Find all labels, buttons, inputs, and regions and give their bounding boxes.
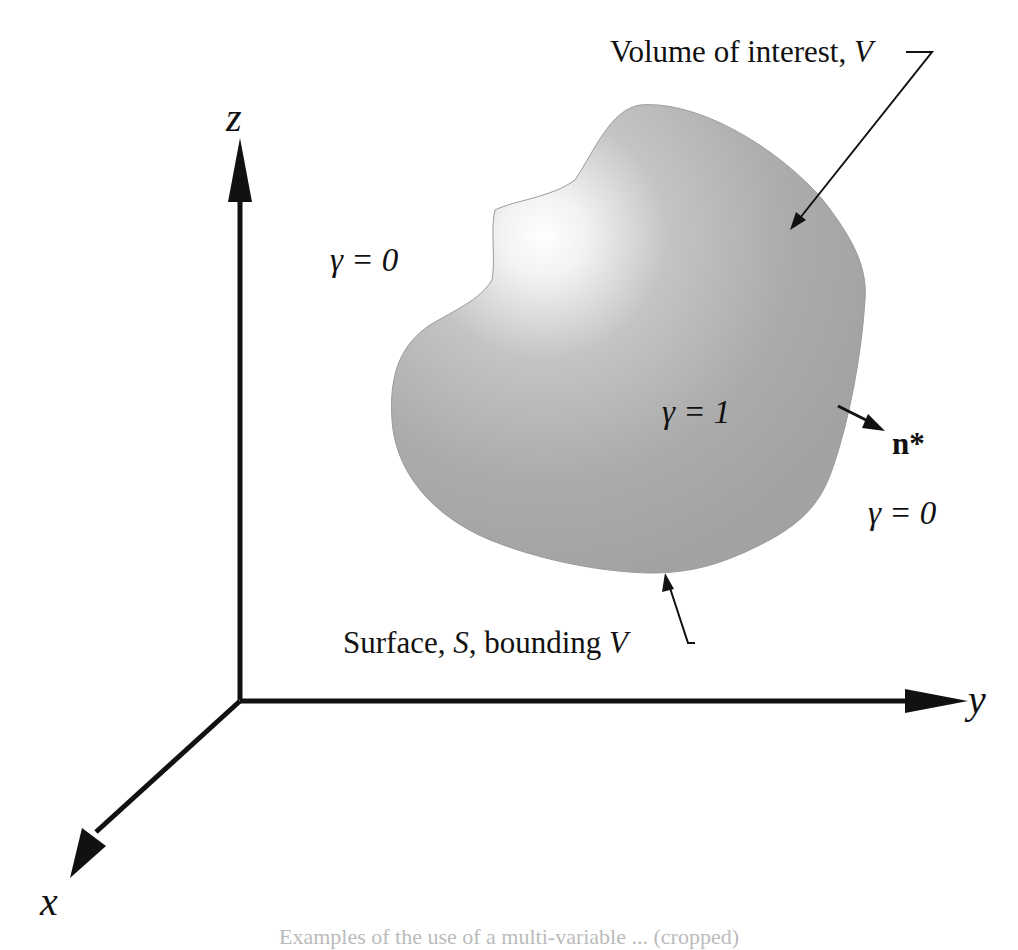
- z-axis-label: z: [226, 98, 242, 138]
- volume-annotation-text: Volume of interest,: [610, 34, 854, 69]
- z-axis: [228, 138, 252, 700]
- x-axis-label: x: [40, 882, 58, 922]
- gamma-one-text: γ = 1: [662, 394, 730, 430]
- gamma-zero-right: γ = 0: [868, 497, 936, 530]
- x-axis: [70, 701, 240, 878]
- surface-annotation-prefix: Surface,: [343, 625, 453, 660]
- surface-leader-arrow: [662, 573, 695, 643]
- gamma-zero-right-text: γ = 0: [868, 495, 936, 531]
- surface-annotation: Surface, S, bounding V: [343, 627, 628, 658]
- surface-bounding-symbol: V: [609, 625, 628, 660]
- gamma-one-inside: γ = 1: [662, 396, 730, 429]
- surface-annotation-suffix: , bounding: [469, 625, 609, 660]
- normal-label: n*: [892, 428, 925, 459]
- gamma-zero-left-text: γ = 0: [330, 242, 398, 278]
- gamma-zero-left: γ = 0: [330, 244, 398, 277]
- volume-symbol: V: [854, 34, 873, 69]
- surface-symbol: S: [453, 625, 469, 660]
- y-axis: [240, 689, 968, 713]
- volume-shape: [392, 105, 866, 573]
- cropped-caption: Examples of the use of a multi-variable …: [0, 924, 1018, 950]
- volume-annotation: Volume of interest, V: [610, 36, 873, 67]
- y-axis-label: y: [968, 680, 986, 720]
- volume-leader-arrow: [790, 52, 932, 230]
